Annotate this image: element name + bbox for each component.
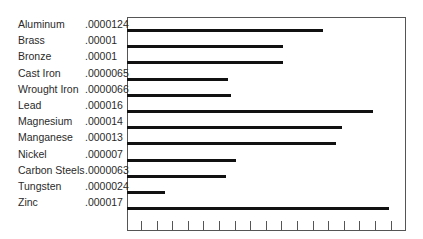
value-label: .00001 [85,50,117,62]
axis-tick [313,221,314,231]
value-label: .0000024 [85,180,129,192]
axis-tick [281,221,282,231]
category-label: Cast Iron [18,67,61,79]
category-label: Bronze [18,50,51,62]
value-label: .000014 [85,115,123,127]
bar [127,207,389,210]
axis-tick [203,221,204,231]
value-label: .000007 [85,148,123,160]
value-label: .000016 [85,99,123,111]
bar [127,61,283,64]
axis-tick [391,221,392,231]
category-label: Nickel [18,148,47,160]
value-label: .0000124 [85,18,129,30]
category-label: Zinc [18,196,38,208]
category-label: Lead [18,99,41,111]
value-label: .0000065 [85,67,129,79]
axis-tick [297,221,298,231]
axis-tick [375,221,376,231]
bar [127,191,165,194]
bar [127,110,373,113]
axis-tick [235,221,236,231]
category-label: Manganese [18,131,73,143]
axis-tick [359,221,360,231]
category-label: Magnesium [18,115,72,127]
axis-tick [250,221,251,231]
bar [127,126,342,129]
category-label: Carbon Steels [18,164,85,176]
axis-tick [188,221,189,231]
axis-tick [219,221,220,231]
bar [127,175,226,178]
value-label: .0000063 [85,164,129,176]
value-label: .00001 [85,34,117,46]
axis-tick [157,221,158,231]
bar [127,29,323,32]
bar [127,94,231,97]
category-label: Brass [18,34,45,46]
category-label: Aluminum [18,18,65,30]
value-label: .0000066 [85,83,129,95]
category-label: Tungsten [18,180,61,192]
bar [127,78,228,81]
category-label: Wrought Iron [18,83,79,95]
axis-tick [172,221,173,231]
bar [127,159,236,162]
value-label: .000017 [85,196,123,208]
bar [127,45,283,48]
axis-tick [141,221,142,231]
bar [127,142,336,145]
axis-tick [344,221,345,231]
chart-frame [127,17,406,231]
value-label: .000013 [85,131,123,143]
axis-tick [266,221,267,231]
axis-tick [328,221,329,231]
